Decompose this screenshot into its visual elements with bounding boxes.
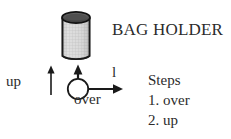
cylinder-bag-holder [62,12,90,59]
axis-label-length: l [112,65,116,80]
bag-holder-diagram: BAG HOLDER up over l Steps 1. over 2. up [0,0,231,139]
axis-label-up: up [6,74,21,89]
axis-label-over: over [74,92,101,107]
page-title: BAG HOLDER [112,21,223,38]
vertical-axis-arrow-icon [47,66,54,96]
steps-list-item: 2. up [148,113,178,128]
up-arrow-icon [74,65,83,80]
steps-heading: Steps [148,73,181,88]
steps-list-item: 1. over [148,93,190,108]
